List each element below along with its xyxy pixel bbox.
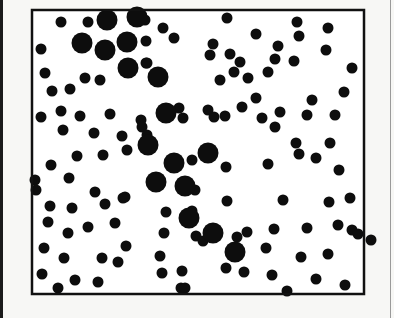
small-dot bbox=[257, 113, 268, 124]
small-dot bbox=[161, 207, 172, 218]
large-dot bbox=[156, 103, 177, 124]
small-dot bbox=[294, 31, 305, 42]
small-dot bbox=[302, 110, 313, 121]
small-dot bbox=[118, 193, 129, 204]
small-dot bbox=[321, 45, 332, 56]
small-dot bbox=[187, 155, 198, 166]
small-dot bbox=[237, 102, 248, 113]
small-dot bbox=[36, 44, 47, 55]
small-dot bbox=[159, 228, 170, 239]
small-dot bbox=[333, 220, 344, 231]
small-dot bbox=[229, 67, 240, 78]
large-dot bbox=[146, 172, 167, 193]
small-dot bbox=[243, 73, 254, 84]
small-dot bbox=[323, 249, 334, 260]
small-dot bbox=[67, 203, 78, 214]
small-dot bbox=[100, 199, 111, 210]
small-dot bbox=[340, 280, 351, 291]
small-dot bbox=[261, 243, 272, 254]
small-dot bbox=[323, 23, 334, 34]
small-dot bbox=[221, 162, 232, 173]
large-dot bbox=[179, 208, 200, 229]
small-dot bbox=[65, 84, 76, 95]
large-dot bbox=[203, 223, 224, 244]
small-dot bbox=[37, 269, 48, 280]
small-dot bbox=[263, 67, 274, 78]
large-dot bbox=[225, 242, 246, 263]
small-dot bbox=[275, 107, 286, 118]
large-dot bbox=[175, 176, 196, 197]
small-dot bbox=[296, 252, 307, 263]
large-dot bbox=[198, 143, 219, 164]
large-dot bbox=[138, 135, 159, 156]
small-dot bbox=[158, 23, 169, 34]
small-dot bbox=[269, 224, 280, 235]
small-dot bbox=[289, 56, 300, 67]
small-dot bbox=[263, 159, 274, 170]
small-dot bbox=[270, 54, 281, 65]
small-dot bbox=[121, 241, 132, 252]
small-dot bbox=[40, 68, 51, 79]
small-dot bbox=[56, 17, 67, 28]
dot-pattern-figure bbox=[0, 0, 394, 318]
small-dot bbox=[345, 193, 356, 204]
small-dot bbox=[45, 201, 56, 212]
small-dot bbox=[141, 36, 152, 47]
small-dot bbox=[221, 263, 232, 274]
small-dot bbox=[324, 197, 335, 208]
small-dot bbox=[294, 149, 305, 160]
small-dot bbox=[75, 111, 86, 122]
small-dot bbox=[251, 93, 262, 104]
small-dot bbox=[80, 73, 91, 84]
small-dot bbox=[58, 125, 69, 136]
small-dot bbox=[93, 277, 104, 288]
small-dot bbox=[222, 13, 233, 24]
small-dot bbox=[155, 251, 166, 262]
small-dot bbox=[251, 29, 262, 40]
small-dot bbox=[43, 217, 54, 228]
small-dot bbox=[95, 75, 106, 86]
small-dot bbox=[56, 106, 67, 117]
small-dot bbox=[177, 266, 188, 277]
small-dot bbox=[157, 268, 168, 279]
small-dot bbox=[270, 122, 281, 133]
small-dot bbox=[117, 131, 128, 142]
small-dot bbox=[178, 113, 189, 124]
small-dot bbox=[267, 270, 278, 281]
large-dot bbox=[118, 58, 139, 79]
small-dot bbox=[311, 274, 322, 285]
small-dot bbox=[83, 17, 94, 28]
small-dot bbox=[232, 232, 243, 243]
small-dot bbox=[291, 138, 302, 149]
small-dot bbox=[98, 150, 109, 161]
small-dot bbox=[72, 151, 83, 162]
small-dot bbox=[334, 165, 345, 176]
small-dot bbox=[83, 222, 94, 233]
small-dot bbox=[90, 187, 101, 198]
small-dot bbox=[292, 17, 303, 28]
small-dot bbox=[302, 223, 313, 234]
small-dot bbox=[122, 145, 133, 156]
small-dot bbox=[273, 41, 284, 52]
small-dot bbox=[225, 49, 236, 60]
small-dot bbox=[63, 228, 74, 239]
large-dot bbox=[95, 40, 116, 61]
small-dot bbox=[325, 138, 336, 149]
small-dot bbox=[110, 218, 121, 229]
small-dot bbox=[70, 275, 81, 286]
small-dot bbox=[113, 257, 124, 268]
small-dot bbox=[36, 112, 47, 123]
small-dot bbox=[220, 111, 231, 122]
large-dot bbox=[117, 32, 138, 53]
small-dot bbox=[347, 63, 358, 74]
small-dot bbox=[39, 243, 50, 254]
small-dot bbox=[89, 128, 100, 139]
small-dot bbox=[222, 196, 233, 207]
small-dot bbox=[311, 153, 322, 164]
small-dot bbox=[307, 95, 318, 106]
small-dot bbox=[53, 283, 64, 294]
small-dot bbox=[330, 110, 341, 121]
small-dot bbox=[239, 267, 250, 278]
small-dot bbox=[215, 75, 226, 86]
small-dot bbox=[235, 57, 246, 68]
